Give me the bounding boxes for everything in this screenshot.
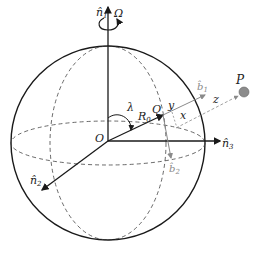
b2-label: b̂2: [169, 162, 180, 176]
x-label: x: [180, 109, 187, 122]
z-label: z: [212, 93, 219, 106]
sphere-diagram: n̂1 Ω n̂3 n̂2 O λ R0 Q y x z b̂1 b̂2 P: [0, 0, 262, 255]
n3-label: n̂3: [222, 137, 234, 151]
y-label: y: [167, 99, 175, 112]
r0-vector: [108, 115, 163, 141]
b1-label: b̂1: [197, 80, 208, 94]
b2-vector: [163, 115, 171, 158]
x-segment: [172, 112, 177, 128]
origin-label: O: [95, 132, 104, 145]
q-label: Q: [152, 103, 161, 116]
p-label: P: [235, 73, 245, 87]
r0-label: R0: [137, 110, 151, 124]
omega-label: Ω: [113, 7, 123, 20]
n1-label: n̂1: [96, 6, 108, 20]
point-p: [239, 87, 249, 97]
lambda-label: λ: [126, 101, 134, 114]
n2-label: n̂2: [30, 174, 42, 188]
lambda-arc: [108, 115, 131, 130]
